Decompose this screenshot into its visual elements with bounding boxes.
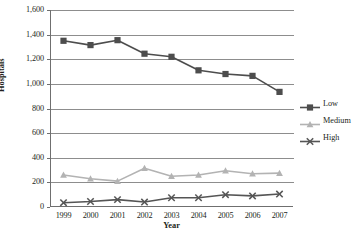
legend-label-low: Low	[323, 100, 338, 108]
legend-item-high[interactable]: High	[300, 130, 354, 147]
y-tick-label-400: 400	[0, 154, 44, 162]
chart-figure: Hospitals 02004006008001,0001,2001,4001,…	[0, 0, 354, 236]
series-high	[60, 191, 282, 206]
legend-label-high: High	[323, 134, 339, 142]
y-tick-label-1000: 1,000	[0, 80, 44, 88]
legend-item-low[interactable]: Low	[300, 96, 354, 113]
legend-swatch-triangle-icon	[300, 116, 320, 127]
data-point-low-2005	[222, 71, 228, 77]
data-point-low-2002	[141, 51, 147, 57]
data-series-layer	[50, 10, 293, 207]
legend-item-medium[interactable]: Medium	[300, 113, 354, 130]
series-line-low	[64, 40, 280, 92]
series-medium	[60, 165, 283, 184]
chart-legend: LowMediumHigh	[300, 96, 354, 147]
x-tick-label-2001: 2001	[104, 212, 132, 220]
legend-swatch-square-icon	[300, 99, 320, 110]
y-tick-label-800: 800	[0, 105, 44, 113]
y-tick-label-600: 600	[0, 129, 44, 137]
x-tick-label-2003: 2003	[158, 212, 186, 220]
x-tick-label-2002: 2002	[131, 212, 159, 220]
data-point-medium-2002	[141, 165, 148, 171]
legend-swatch-x-icon	[300, 133, 320, 144]
data-point-low-2003	[168, 54, 174, 60]
data-point-low-2001	[114, 37, 120, 43]
x-tick-label-2007: 2007	[266, 212, 294, 220]
y-tick-label-1400: 1,400	[0, 31, 44, 39]
y-tick-label-1200: 1,200	[0, 55, 44, 63]
y-tick-label-0: 0	[0, 203, 44, 211]
x-tick-label-2000: 2000	[77, 212, 105, 220]
legend-label-medium: Medium	[323, 117, 351, 125]
data-point-low-1999	[60, 38, 66, 44]
y-tick-label-200: 200	[0, 178, 44, 186]
data-point-low-2007	[276, 89, 282, 95]
y-tick-label-1600: 1,600	[0, 6, 44, 14]
x-axis-title: Year	[50, 222, 293, 230]
x-tick-label-1999: 1999	[50, 212, 78, 220]
y-tick-mark-0	[47, 207, 50, 208]
series-low	[60, 37, 282, 95]
x-tick-label-2004: 2004	[185, 212, 213, 220]
x-tick-label-2005: 2005	[212, 212, 240, 220]
x-tick-label-2006: 2006	[239, 212, 267, 220]
data-point-low-2000	[87, 42, 93, 48]
data-point-low-2006	[249, 73, 255, 79]
data-point-low-2004	[195, 67, 201, 73]
